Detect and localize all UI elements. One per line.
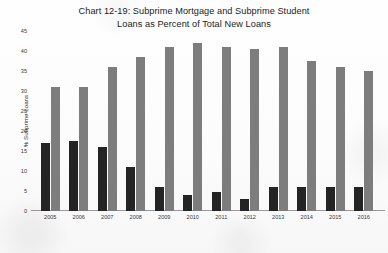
y-axis-tick-label: 45: [21, 28, 27, 34]
bar-mortgage-2006: [69, 141, 78, 211]
bar-mortgage-2015: [326, 187, 335, 211]
x-axis-tick-label: 2007: [93, 214, 122, 220]
x-axis-tick-label: 2006: [65, 214, 94, 220]
x-axis-tick-label: 2012: [236, 214, 265, 220]
bar-student-2008: [136, 57, 145, 211]
x-axis-tick-label: 2014: [293, 214, 322, 220]
bar-group: [350, 31, 379, 211]
x-axis-tick-label: 2005: [36, 214, 65, 220]
bar-chart: Chart 12-19: Subprime Mortgage and Subpr…: [0, 0, 388, 253]
bar-mortgage-2013: [269, 187, 278, 211]
bar-group: [150, 31, 179, 211]
x-axis-ticks: 2005200620072008200920102011201220132014…: [33, 214, 381, 220]
bar-group: [321, 31, 350, 211]
y-axis-tick-label: 0: [24, 208, 27, 214]
bar-mortgage-2010: [183, 195, 192, 211]
bar-mortgage-2008: [126, 167, 135, 211]
bar-student-2009: [165, 47, 174, 211]
chart-title-line-1: Chart 12-19: Subprime Mortgage and Subpr…: [0, 5, 388, 18]
bar-group: [179, 31, 208, 211]
x-axis-tick-label: 2009: [150, 214, 179, 220]
chart-title-line-2: Loans as Percent of Total New Loans: [0, 18, 388, 31]
bar-groups: [33, 31, 381, 211]
bar-student-2015: [336, 67, 345, 211]
bar-mortgage-2009: [155, 187, 164, 211]
bar-student-2006: [79, 87, 88, 211]
bar-group: [36, 31, 65, 211]
x-axis-tick-label: 2010: [179, 214, 208, 220]
bar-mortgage-2012: [240, 199, 249, 211]
bar-group: [236, 31, 265, 211]
y-axis-tick-label: 10: [21, 168, 27, 174]
y-axis-tick-label: 5: [24, 188, 27, 194]
bar-group: [293, 31, 322, 211]
chart-title: Chart 12-19: Subprime Mortgage and Subpr…: [0, 5, 388, 30]
bar-student-2016: [364, 71, 373, 211]
bar-group: [65, 31, 94, 211]
y-axis-ticks: 051015202530354045: [0, 31, 30, 211]
bar-student-2007: [108, 67, 117, 211]
bar-student-2014: [307, 61, 316, 211]
bar-mortgage-2014: [297, 187, 306, 211]
bar-student-2011: [222, 47, 231, 211]
bar-group: [207, 31, 236, 211]
bar-student-2012: [250, 49, 259, 211]
x-axis-tick-label: 2008: [122, 214, 151, 220]
bar-mortgage-2005: [41, 143, 50, 211]
bar-student-2005: [51, 87, 60, 211]
y-axis-tick-label: 40: [21, 48, 27, 54]
plot-area: [33, 31, 381, 211]
bar-group: [122, 31, 151, 211]
bar-group: [93, 31, 122, 211]
x-axis-tick-label: 2016: [350, 214, 379, 220]
y-axis-tick-label: 30: [21, 88, 27, 94]
bar-mortgage-2007: [98, 147, 107, 211]
y-axis-tick-label: 15: [21, 148, 27, 154]
y-axis-tick-label: 35: [21, 68, 27, 74]
x-axis-tick-label: 2015: [321, 214, 350, 220]
bar-mortgage-2016: [354, 187, 363, 211]
y-axis-tick-label: 25: [21, 108, 27, 114]
bar-group: [264, 31, 293, 211]
y-axis-tick-label: 20: [21, 128, 27, 134]
x-axis-tick-label: 2011: [207, 214, 236, 220]
bar-mortgage-2011: [212, 192, 221, 211]
x-axis-tick-label: 2013: [264, 214, 293, 220]
bar-student-2013: [279, 47, 288, 211]
bar-student-2010: [193, 43, 202, 211]
